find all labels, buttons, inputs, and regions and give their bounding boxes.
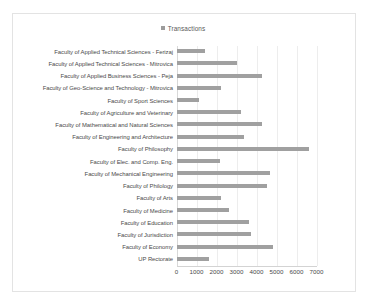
bar [177, 232, 251, 236]
category-label: Faculty of Education [14, 220, 173, 227]
bar-row [177, 144, 317, 156]
category-label: Faculty of Philosophy [14, 146, 173, 153]
category-label: Faculty of Engineering and Architecture [14, 134, 173, 141]
bar-row [177, 46, 317, 58]
category-label: Faculty of Applied Business Sciences - P… [14, 73, 173, 80]
bar-row [177, 70, 317, 82]
bar [177, 257, 209, 261]
category-label: Faculty of Philology [14, 183, 173, 190]
bar-row [177, 254, 317, 266]
bar [177, 122, 262, 126]
bar-row [177, 95, 317, 107]
x-tick-label: 6000 [290, 268, 304, 275]
bar [177, 147, 309, 151]
category-label: Faculty of Mechanical Engineering [14, 171, 173, 178]
bar-row [177, 242, 317, 254]
x-tick-label: 1000 [190, 268, 204, 275]
bar [177, 49, 205, 53]
gridline-7000 [317, 46, 318, 266]
x-axis-line [177, 266, 317, 267]
bar [177, 159, 220, 163]
bar-row [177, 107, 317, 119]
legend-item-transactions: Transactions [161, 25, 206, 32]
bar [177, 196, 221, 200]
bar-row [177, 193, 317, 205]
category-label: Faculty of Geo-Science and Technology - … [14, 85, 173, 92]
bar [177, 86, 221, 90]
category-label: Faculty of Elec. and Comp. Eng. [14, 159, 173, 166]
bar [177, 61, 237, 65]
x-axis-tick-labels: 01000200030004000500060007000 [177, 268, 317, 280]
category-label: UP Rectorate [14, 256, 173, 263]
bar-row [177, 217, 317, 229]
chart-legend: Transactions [0, 24, 366, 32]
bar [177, 208, 229, 212]
bar-row [177, 156, 317, 168]
category-label: Faculty of Mathematical and Natural Scie… [14, 122, 173, 129]
bar [177, 220, 249, 224]
bar [177, 171, 270, 175]
category-label: Faculty of Applied Technical Sciences - … [14, 61, 173, 68]
category-label: Faculty of Arts [14, 195, 173, 202]
x-tick-label: 4000 [250, 268, 264, 275]
category-label: Faculty of Jurisdiction [14, 232, 173, 239]
bar-row [177, 180, 317, 192]
category-label: Faculty of Agriculture and Veterinary [14, 110, 173, 117]
category-label: Faculty of Medicine [14, 208, 173, 215]
bar [177, 110, 241, 114]
bar-row [177, 83, 317, 95]
x-tick-label: 2000 [210, 268, 224, 275]
category-axis-labels: Faculty of Applied Technical Sciences - … [14, 46, 173, 266]
bar-row [177, 119, 317, 131]
bar [177, 98, 199, 102]
bar [177, 184, 267, 188]
chart-plot-area [177, 46, 317, 266]
bar-row [177, 58, 317, 70]
category-label: Faculty of Applied Technical Sciences - … [14, 49, 173, 56]
bar [177, 245, 273, 249]
chart-bars [177, 46, 317, 266]
legend-label: Transactions [168, 25, 206, 32]
x-tick-label: 3000 [230, 268, 244, 275]
bar-row [177, 168, 317, 180]
bar [177, 135, 244, 139]
x-tick-label: 7000 [310, 268, 324, 275]
bar [177, 74, 262, 78]
x-tick-label: 5000 [270, 268, 284, 275]
bar-row [177, 205, 317, 217]
bar-row [177, 132, 317, 144]
x-tick-label: 0 [175, 268, 178, 275]
category-label: Faculty of Economy [14, 244, 173, 251]
bar-row [177, 229, 317, 241]
category-label: Faculty of Sport Sciences [14, 98, 173, 105]
legend-swatch-icon [161, 26, 165, 30]
transactions-bar-chart: Transactions Faculty of Applied Technica… [0, 0, 366, 305]
